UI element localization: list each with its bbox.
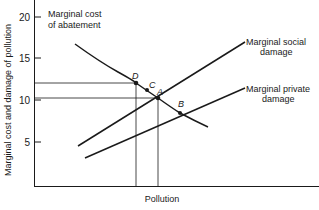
y-axis-title: Marginal cost and damage of pollution — [3, 24, 13, 176]
x-axis-title: Pollution — [145, 194, 180, 204]
abatement-cost-curve — [75, 44, 208, 127]
social-damage-label-line2: damage — [260, 47, 293, 57]
y-tick-20: 20 — [19, 12, 31, 23]
y-tick-5: 5 — [24, 137, 30, 148]
point-a-label: A — [156, 87, 163, 97]
private-damage-label-line2: damage — [262, 94, 295, 104]
private-damage-label-line1: Marginal private — [246, 84, 310, 94]
social-damage-label-line1: Marginal social — [246, 37, 306, 47]
abatement-label-line2: of abatement — [48, 20, 101, 30]
y-ticks: 20 15 10 5 — [19, 12, 41, 148]
private-damage-line — [85, 88, 245, 158]
point-b-label: B — [178, 99, 184, 109]
abatement-label-line1: Marginal cost — [48, 9, 102, 19]
point-d-marker — [134, 81, 139, 86]
point-d-label: D — [132, 71, 139, 81]
y-tick-15: 15 — [19, 53, 31, 64]
point-b-marker — [178, 111, 182, 115]
y-tick-10: 10 — [19, 95, 31, 106]
point-c-label: C — [149, 80, 156, 90]
chart-canvas: 20 15 10 5 Marginal cost and damage of p… — [0, 0, 319, 210]
